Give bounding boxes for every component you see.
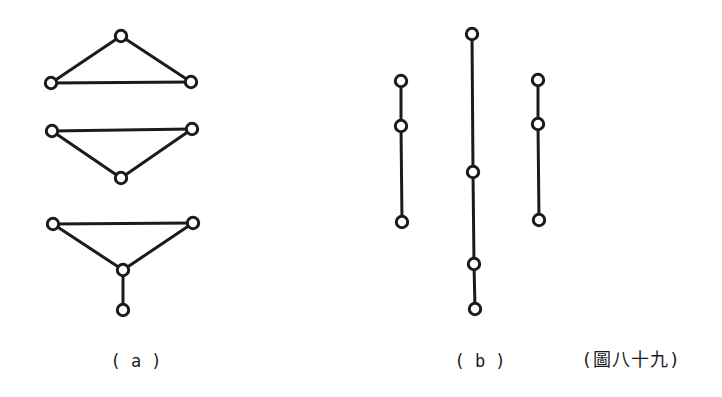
- graph-node: [395, 120, 406, 131]
- graph-node: [396, 216, 407, 227]
- graph-edge: [472, 34, 473, 172]
- graph-node: [533, 214, 544, 225]
- a-triangle-down: [46, 123, 197, 183]
- b-path-middle: [466, 28, 480, 314]
- graph-node: [467, 166, 478, 177]
- graph-node: [466, 28, 477, 39]
- graph-node: [117, 264, 128, 275]
- graph-edge: [52, 131, 121, 178]
- graph-node: [532, 118, 543, 129]
- graph-edge: [51, 82, 191, 83]
- figure-89: ( a ) ( b ) (圖八十九): [0, 0, 722, 397]
- graph-edge: [401, 126, 402, 222]
- subfigure-label-a: ( a ): [100, 351, 172, 371]
- graph-edge: [123, 223, 193, 270]
- graph-node: [532, 74, 543, 85]
- graph-node: [395, 75, 406, 86]
- graph-edge: [538, 124, 539, 220]
- graph-node: [47, 218, 58, 229]
- graph-node: [187, 217, 198, 228]
- graph-edge: [52, 129, 192, 131]
- b-path-left: [395, 75, 407, 227]
- graph-node: [117, 304, 128, 315]
- figure-caption: (圖八十九): [553, 349, 709, 371]
- graph-edge: [473, 172, 474, 264]
- a-triangle-with-pendant: [47, 217, 198, 315]
- graph-node: [115, 30, 126, 41]
- graph-node: [185, 76, 196, 87]
- graph-edge: [121, 129, 192, 178]
- graph-node: [46, 125, 57, 136]
- graph-node: [186, 123, 197, 134]
- graph-node: [469, 303, 480, 314]
- graph-edge: [53, 223, 193, 224]
- graph-edge: [121, 36, 191, 82]
- graph-node: [115, 172, 126, 183]
- graph-diagram-canvas: [0, 0, 722, 397]
- a-triangle-up: [45, 30, 196, 88]
- graph-node: [45, 77, 56, 88]
- graph-node: [468, 258, 479, 269]
- graph-edge: [51, 36, 121, 83]
- graph-edge: [53, 224, 123, 270]
- subfigure-label-b: ( b ): [444, 351, 516, 371]
- b-path-right: [532, 74, 544, 225]
